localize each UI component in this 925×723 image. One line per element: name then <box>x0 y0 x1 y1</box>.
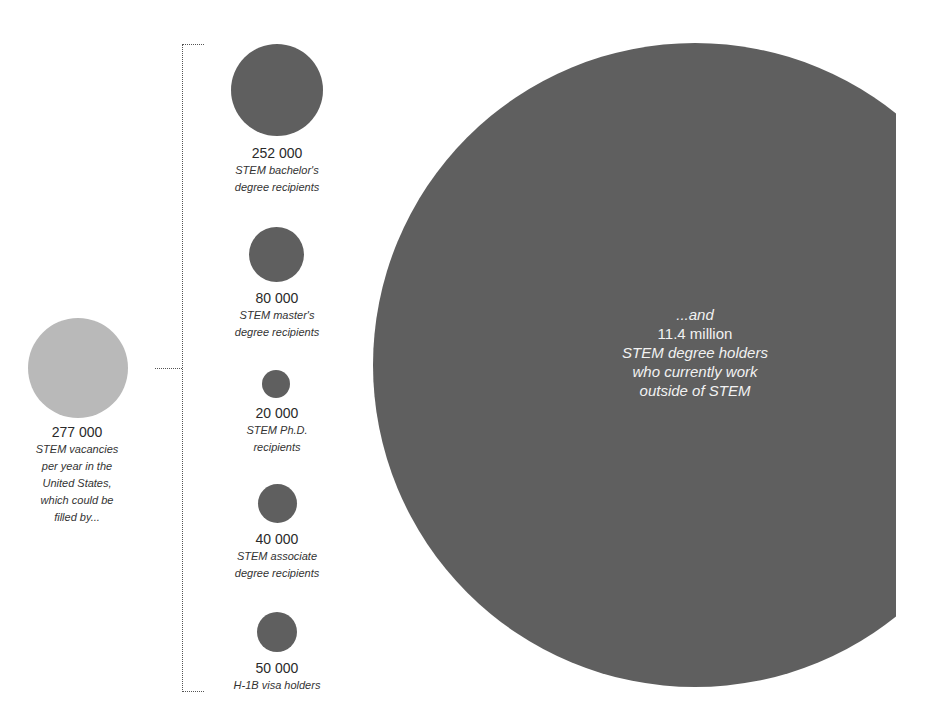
outside-stem-desc-line: outside of STEM <box>545 381 845 400</box>
outside-stem-prefix: ...and <box>545 305 845 324</box>
big-bubble-clip: ...and 11.4 million STEM degree holders … <box>0 0 896 723</box>
outside-stem-desc-line: who currently work <box>545 362 845 381</box>
outside-stem-value: 11.4 million <box>545 324 845 343</box>
outside-stem-desc-line: STEM degree holders <box>545 343 845 362</box>
outside-stem-label: ...and 11.4 million STEM degree holders … <box>545 305 845 400</box>
